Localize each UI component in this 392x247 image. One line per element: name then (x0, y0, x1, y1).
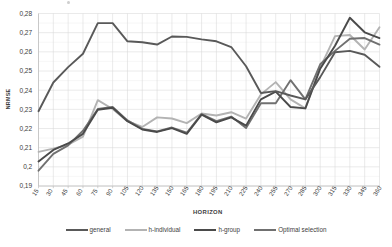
y-axis-tick-label: 0,21 (8, 144, 32, 151)
x-axis-title: HORIZON (193, 209, 223, 215)
legend-swatch-icon (66, 229, 88, 231)
legend-item-general[interactable]: general (66, 226, 111, 234)
legend-swatch-icon (125, 229, 147, 231)
y-axis-tick-label: 0,23 (8, 106, 32, 113)
legend-item-h-group[interactable]: h-group (194, 226, 240, 234)
y-axis-tick-label: 0,22 (8, 125, 32, 132)
y-axis-tick-label: 0,24 (8, 87, 32, 94)
legend-label: general (90, 226, 111, 234)
legend-item-h-individual[interactable]: h-individual (125, 226, 181, 234)
legend-label: h-group (218, 226, 240, 234)
legend-item-optimal-selection[interactable]: Optimal selection (254, 226, 326, 234)
y-axis-tick-label: 0,28 (8, 10, 32, 17)
y-axis-tick-label: 0,19 (8, 182, 32, 189)
y-axis-tick-label: 0,26 (8, 48, 32, 55)
y-axis-tick-label: 0,27 (8, 29, 32, 36)
legend-label: Optimal selection (278, 226, 326, 234)
legend-swatch-icon (194, 229, 216, 231)
legend-label: h-individual (149, 226, 181, 234)
chart-legend: generalh-individualh-groupOptimal select… (0, 226, 392, 234)
y-axis-tick-label: 0,25 (8, 67, 32, 74)
chart-figure: 0,280,270,260,250,240,230,220,210,20,19 … (0, 0, 392, 247)
legend-swatch-icon (254, 229, 276, 231)
y-axis-title: NRMSE (5, 82, 11, 116)
y-axis-tick-label: 0,2 (8, 163, 32, 170)
